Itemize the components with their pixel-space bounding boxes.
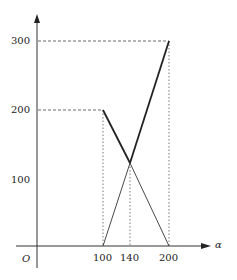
- y-tick-100: 100: [11, 174, 30, 185]
- x-tick-140: 140: [120, 252, 139, 263]
- y-axis-arrow-icon: [34, 14, 40, 23]
- chart: 300 200 100 100 140 200 α O: [0, 0, 237, 280]
- plot-area: [0, 0, 237, 280]
- y-tick-300: 300: [11, 35, 30, 46]
- series-increasing-thick: [130, 41, 169, 163]
- series-increasing-thin: [103, 163, 130, 246]
- x-tick-200: 200: [159, 252, 178, 263]
- series-decreasing-thin: [130, 163, 169, 246]
- y-tick-200: 200: [11, 104, 30, 115]
- x-tick-100: 100: [93, 252, 112, 263]
- series-decreasing-thick: [103, 110, 130, 163]
- x-axis-arrow-icon: [201, 243, 211, 249]
- origin-label: O: [22, 253, 30, 264]
- x-axis-label: α: [215, 239, 222, 250]
